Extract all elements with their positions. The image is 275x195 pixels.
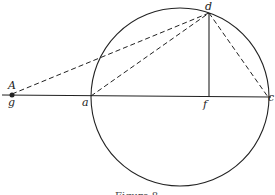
label-f: f bbox=[202, 98, 209, 111]
label-d: d bbox=[205, 0, 212, 13]
baseline bbox=[2, 95, 271, 97]
dashed-line-dc bbox=[209, 13, 268, 97]
label-g: g bbox=[8, 96, 15, 109]
figure-caption: Figure 8 bbox=[115, 190, 158, 195]
label-A: A bbox=[7, 79, 16, 92]
label-c: c bbox=[268, 91, 274, 104]
label-a: a bbox=[82, 96, 89, 109]
geometry-diagram: A g a f c d Figure 8 bbox=[0, 0, 275, 195]
